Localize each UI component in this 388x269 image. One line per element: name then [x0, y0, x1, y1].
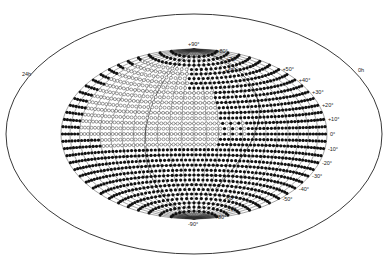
latitude-label: +50° — [282, 66, 294, 72]
right-ra-label: 0h — [358, 67, 364, 73]
latitude-label: -50° — [282, 196, 292, 202]
latitude-label: +30° — [312, 89, 324, 95]
latitude-label: +40° — [299, 77, 311, 83]
latitude-label: -70° — [226, 206, 236, 212]
latitude-label: +60° — [225, 67, 237, 73]
latitude-label: -10° — [328, 146, 338, 152]
latitude-label: +80° — [216, 48, 228, 54]
all-sky-projection-figure: +90°+80°+70°+60°+50°+40°+30°+20°+10°0°-1… — [0, 0, 388, 269]
latitude-label: +90° — [188, 41, 200, 47]
latitude-label: 0° — [330, 131, 335, 137]
latitude-label: +20° — [322, 102, 334, 108]
left-ra-label: 24h — [22, 71, 31, 77]
latitude-label: -80° — [216, 214, 226, 220]
latitude-label: -40° — [299, 186, 309, 192]
latitude-label: -90° — [188, 221, 198, 227]
latitude-label: -60° — [225, 195, 235, 201]
latitude-label: +70° — [226, 56, 238, 62]
latitude-label: -20° — [322, 160, 332, 166]
latitude-label: -30° — [312, 173, 322, 179]
latitude-label: +10° — [328, 116, 340, 122]
